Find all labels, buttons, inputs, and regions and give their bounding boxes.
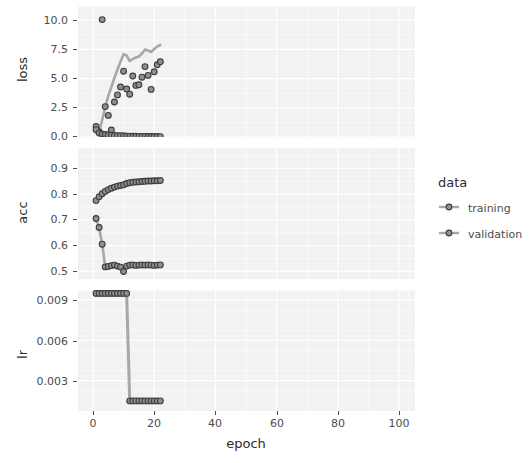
- ytick-label-acc-3: 0.6: [18, 239, 68, 252]
- ytick-mark-loss-2: [73, 78, 77, 79]
- ytick-label-lr-2: 0.003: [8, 375, 68, 388]
- ytick-label-loss-2: 5.0: [18, 72, 68, 85]
- xtick-mark-4: [338, 411, 339, 415]
- legend-key-training[interactable]: [438, 198, 460, 216]
- xtick-label-2: 40: [190, 417, 240, 430]
- xtick-mark-5: [399, 411, 400, 415]
- ytick-label-lr-1: 0.006: [8, 335, 68, 348]
- ytick-mark-acc-2: [73, 219, 77, 220]
- ytick-label-acc-4: 0.5: [18, 265, 68, 278]
- ytick-mark-acc-0: [73, 168, 77, 169]
- legend-glyph-validation: [438, 224, 460, 242]
- legend-label-training[interactable]: training: [468, 202, 511, 215]
- panel-loss-svg: [78, 6, 415, 137]
- xtick-label-5: 100: [374, 417, 424, 430]
- xtick-mark-3: [277, 411, 278, 415]
- ytick-mark-acc-1: [73, 194, 77, 195]
- ytick-mark-loss-1: [73, 49, 77, 50]
- chart-canvas: loss: [0, 0, 529, 463]
- panel-lr: [78, 290, 415, 411]
- panel-lr-svg: [78, 290, 415, 411]
- series-points-training-loss: [93, 127, 163, 137]
- legend-glyph-training: [438, 198, 460, 216]
- series-line-training-lr: [96, 293, 160, 401]
- xtick-mark-1: [154, 411, 155, 415]
- xtick-mark-2: [215, 411, 216, 415]
- xtick-label-4: 80: [313, 417, 363, 430]
- panel-acc-svg: [78, 148, 415, 279]
- ytick-mark-lr-2: [73, 381, 77, 382]
- ytick-mark-lr-1: [73, 341, 77, 342]
- ytick-mark-loss-4: [73, 136, 77, 137]
- panel-acc: [78, 148, 415, 279]
- xtick-mark-0: [93, 411, 94, 415]
- ytick-mark-loss-3: [73, 107, 77, 108]
- grid-lines-loss: [78, 6, 415, 137]
- ytick-label-loss-4: 0.0: [18, 130, 68, 143]
- xtick-label-1: 20: [129, 417, 179, 430]
- ytick-label-acc-2: 0.7: [18, 213, 68, 226]
- grid-lines-acc: [78, 148, 415, 279]
- ytick-mark-acc-3: [73, 245, 77, 246]
- legend-title: data: [438, 175, 467, 190]
- ytick-label-lr-0: 0.009: [8, 294, 68, 307]
- ytick-label-acc-0: 0.9: [18, 162, 68, 175]
- panel-loss: [78, 6, 415, 137]
- ytick-label-loss-1: 7.5: [18, 43, 68, 56]
- legend-key-validation[interactable]: [438, 224, 460, 242]
- ytick-mark-acc-4: [73, 271, 77, 272]
- ytick-label-loss-0: 10.0: [18, 14, 68, 27]
- xtick-label-3: 60: [252, 417, 302, 430]
- legend-label-validation[interactable]: validation: [468, 228, 522, 241]
- ytick-mark-loss-0: [73, 20, 77, 21]
- ytick-mark-lr-0: [73, 300, 77, 301]
- x-axis-title: epoch: [196, 436, 296, 451]
- xtick-label-0: 0: [68, 417, 118, 430]
- ytick-label-loss-3: 2.5: [18, 101, 68, 114]
- ytick-label-acc-1: 0.8: [18, 188, 68, 201]
